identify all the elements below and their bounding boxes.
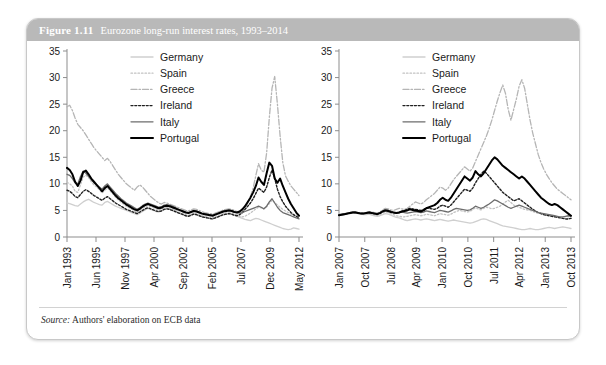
y-axis-tick-label: 20 [49, 125, 61, 136]
y-axis-tick-label: 25 [321, 99, 333, 110]
x-axis-tick-label: Jun 1995 [91, 247, 102, 289]
figure-container: Figure 1.11 Eurozone long-run interest r… [26, 18, 580, 340]
legend-label-spain: Spain [160, 67, 187, 79]
y-axis-tick-label: 30 [321, 72, 333, 83]
x-axis-tick-label: Jan 1993 [62, 247, 73, 289]
y-axis-tick-label: 5 [326, 205, 332, 216]
legend-label-germany: Germany [432, 51, 476, 63]
x-axis-tick-label: Jan 2013 [540, 247, 551, 289]
x-axis-tick-label: Jul 2008 [386, 247, 397, 285]
x-axis-tick-label: May 2012 [294, 247, 305, 291]
legend-label-italy: Italy [432, 116, 452, 128]
figure-title-bar: Figure 1.11 Eurozone long-run interest r… [27, 19, 579, 41]
legend-label-greece: Greece [432, 83, 467, 95]
x-axis-tick-label: Apr 2000 [149, 247, 160, 288]
x-axis-tick-label: Feb 2005 [207, 247, 218, 290]
y-axis-tick-label: 35 [321, 46, 333, 57]
y-axis-tick-label: 25 [49, 99, 61, 110]
x-axis-tick-label: Oct 2013 [566, 247, 577, 288]
y-axis-tick-label: 15 [321, 152, 333, 163]
chart-left: 05101520253035Jan 1993Jun 1995Nov 1997Ap… [33, 41, 305, 299]
x-axis-tick-label: Jul 2011 [489, 247, 500, 285]
source-text: Authors' elaboration on ECB data [72, 315, 200, 325]
source-note: Source: Authors' elaboration on ECB data [41, 315, 200, 325]
x-axis-tick-label: Sep 2002 [178, 247, 189, 290]
chart-right: 05101520253035Jan 2007Oct 2007Jul 2008Ap… [305, 41, 577, 299]
legend-label-greece: Greece [160, 83, 195, 95]
x-axis-tick-label: Apr 2009 [411, 247, 422, 288]
figure-caption: Eurozone long-run interest rates, 1993–2… [101, 25, 289, 36]
plot-area: 05101520253035Jan 1993Jun 1995Nov 1997Ap… [27, 41, 579, 299]
x-axis-tick-label: Oct 2007 [360, 247, 371, 288]
y-axis-tick-label: 30 [49, 72, 61, 83]
y-axis-tick-label: 35 [49, 46, 61, 57]
series-line-germany [339, 213, 571, 229]
x-axis-tick-label: Oct 2010 [463, 247, 474, 288]
y-axis-tick-label: 10 [321, 178, 333, 189]
source-label: Source: [41, 315, 70, 325]
legend-label-germany: Germany [160, 51, 204, 63]
x-axis-tick-label: Jan 2007 [334, 247, 345, 289]
y-axis-tick-label: 0 [326, 232, 332, 243]
y-axis-tick-label: 0 [54, 232, 60, 243]
y-axis-tick-label: 10 [49, 178, 61, 189]
x-axis-tick-label: Apr 2012 [514, 247, 525, 288]
x-axis-tick-label: Nov 1997 [120, 247, 131, 290]
series-line-greece [67, 77, 299, 215]
x-axis-tick-label: Dec 2009 [265, 247, 276, 290]
y-axis-tick-label: 20 [321, 125, 333, 136]
y-axis-tick-label: 5 [54, 205, 60, 216]
legend-label-ireland: Ireland [160, 99, 192, 111]
legend-label-ireland: Ireland [432, 99, 464, 111]
legend-label-portugal: Portugal [160, 132, 199, 144]
series-line-portugal [339, 157, 571, 215]
source-divider [39, 307, 567, 308]
y-axis-tick-label: 15 [49, 152, 61, 163]
x-axis-tick-label: Jul 2007 [236, 247, 247, 285]
legend-label-italy: Italy [160, 116, 180, 128]
figure-number: Figure 1.11 [39, 24, 94, 36]
legend-label-spain: Spain [432, 67, 459, 79]
x-axis-tick-label: Jan 2010 [437, 247, 448, 289]
legend-label-portugal: Portugal [432, 132, 471, 144]
